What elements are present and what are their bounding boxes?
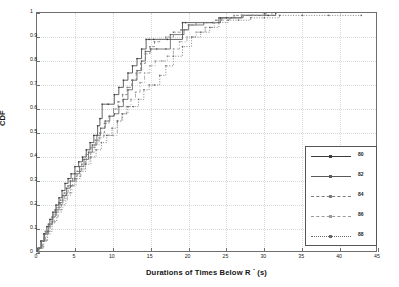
series-marker [214, 22, 215, 23]
series-marker [82, 156, 83, 157]
series-marker [156, 48, 157, 49]
series-marker [80, 168, 81, 169]
series-marker [99, 118, 100, 119]
legend-marker [329, 215, 332, 218]
series-marker [70, 173, 71, 174]
series-marker [145, 53, 146, 54]
series-marker [220, 20, 221, 21]
legend-item-88[interactable]: 88 [306, 227, 378, 247]
series-marker [94, 144, 95, 145]
series-marker [361, 15, 362, 16]
legend-marker [329, 235, 332, 238]
y-tick-label: 0.8 [30, 57, 37, 62]
legend-label: 82 [358, 172, 364, 177]
series-marker [221, 17, 222, 18]
y-tick-label: 0 [30, 249, 33, 254]
series-marker [182, 22, 183, 23]
y-tick-label: 0.3 [30, 177, 37, 182]
series-marker [179, 41, 180, 42]
series-marker [113, 108, 114, 109]
series-marker [195, 22, 196, 23]
y-tick-label: 0.2 [30, 201, 37, 206]
series-marker [95, 149, 96, 150]
series-marker [46, 233, 47, 234]
series-marker [52, 212, 53, 213]
series-marker [65, 195, 66, 196]
legend-item-82[interactable]: 82 [306, 167, 378, 187]
y-tick-label: 0.7 [30, 81, 37, 86]
series-marker [136, 72, 137, 73]
series-marker [54, 209, 55, 210]
series-marker [195, 32, 196, 33]
y-tick-label: 0.9 [30, 33, 37, 38]
series-marker [267, 15, 268, 16]
legend-item-86[interactable]: 86 [306, 207, 378, 227]
series-marker [101, 142, 102, 143]
y-tick-label: 0.4 [30, 153, 37, 158]
x-tick-label: 10 [109, 254, 115, 259]
x-tick-label: 45 [374, 254, 380, 259]
series-marker [143, 89, 144, 90]
series-marker [229, 17, 230, 18]
series-marker [51, 221, 52, 222]
series-marker [61, 190, 62, 191]
series-marker [103, 135, 104, 136]
series-marker [58, 197, 59, 198]
series-marker [149, 46, 150, 47]
series-marker [165, 48, 166, 49]
series-marker [90, 147, 91, 148]
series-marker [126, 106, 127, 107]
series-marker [105, 120, 106, 121]
series-marker [89, 142, 90, 143]
series-marker [209, 27, 210, 28]
series-marker [264, 13, 265, 14]
legend-label: 86 [358, 212, 364, 217]
series-marker [76, 171, 77, 172]
series-marker [114, 94, 115, 95]
series-marker [92, 144, 93, 145]
series-marker [70, 185, 71, 186]
series-marker [89, 152, 90, 153]
series-marker [145, 39, 146, 40]
series-marker [79, 171, 80, 172]
series-marker [85, 161, 86, 162]
series-marker [279, 15, 280, 16]
series-marker [74, 178, 75, 179]
series-line-82 [39, 13, 265, 253]
series-marker [64, 192, 65, 193]
series-marker [95, 140, 96, 141]
series-marker [88, 152, 89, 153]
x-tick-label: 0 [35, 254, 38, 259]
legend-marker [329, 195, 332, 198]
series-marker [165, 65, 166, 66]
series-marker [186, 36, 187, 37]
series-marker [117, 120, 118, 121]
series-marker [126, 87, 127, 88]
series-marker [141, 48, 142, 49]
series-marker [165, 36, 166, 37]
series-marker [62, 195, 63, 196]
legend-marker [329, 175, 332, 178]
y-axis-title: CDF [0, 110, 7, 126]
series-marker [133, 106, 134, 107]
series-marker [154, 84, 155, 85]
legend-item-84[interactable]: 84 [306, 187, 378, 207]
x-tick-label: 40 [336, 254, 342, 259]
series-marker [154, 41, 155, 42]
y-tick-label: 0.5 [30, 129, 37, 134]
series-marker [173, 48, 174, 49]
series-marker [218, 17, 219, 18]
series-marker [138, 99, 139, 100]
series-marker [153, 39, 154, 40]
series-marker [96, 135, 97, 136]
legend-item-80[interactable]: 80 [306, 147, 378, 167]
legend-box[interactable]: 8082848688 [305, 146, 377, 246]
y-tick-label: 0.1 [30, 225, 37, 230]
series-marker [74, 166, 75, 167]
series-marker [70, 180, 71, 181]
series-marker [100, 128, 101, 129]
series-marker [47, 231, 48, 232]
series-marker [104, 123, 105, 124]
series-marker [271, 13, 272, 14]
series-marker [93, 135, 94, 136]
